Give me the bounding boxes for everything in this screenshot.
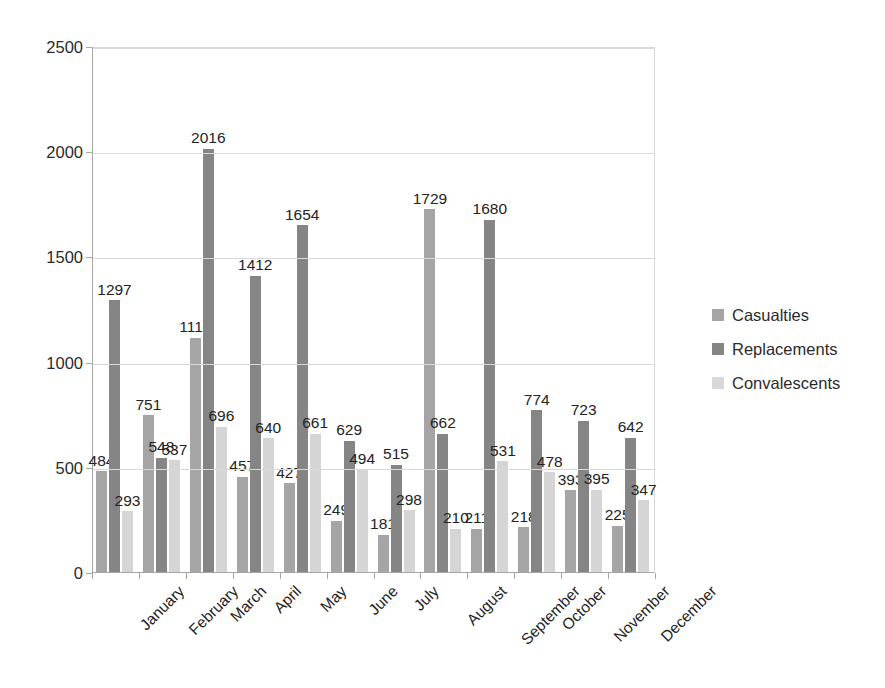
legend-item-replacements[interactable]: Replacements <box>712 332 877 366</box>
bar <box>612 526 623 573</box>
bar-group: 393723395 <box>562 48 609 573</box>
gridline <box>93 469 654 470</box>
bar <box>424 209 435 573</box>
x-axis-tick-mark <box>327 573 328 579</box>
bar <box>544 472 555 573</box>
bar-value-label: 395 <box>584 471 610 487</box>
bar-value-label: 662 <box>430 415 456 431</box>
y-axis: 05001000150020002500 <box>0 47 83 573</box>
bar-group: 11192016696 <box>187 48 234 573</box>
bar-value-label: 478 <box>537 454 563 470</box>
y-axis-tick-mark <box>86 257 92 258</box>
legend-item-label: Casualties <box>732 307 809 324</box>
y-axis-tick-label: 2500 <box>9 39 83 56</box>
bar-value-label: 1654 <box>285 207 319 223</box>
bar <box>357 469 368 573</box>
y-axis-tick-label: 1500 <box>9 249 83 266</box>
x-axis-tick-mark <box>280 573 281 579</box>
bar-value-label: 347 <box>631 482 657 498</box>
y-axis-tick-mark <box>86 47 92 48</box>
bar <box>591 490 602 573</box>
x-axis-tick-mark <box>139 573 140 579</box>
bar-value-label: 642 <box>618 419 644 435</box>
bar-groups: 4841297293751548537111920166964571412640… <box>93 48 654 573</box>
gridline <box>93 153 654 154</box>
bar-value-label: 696 <box>208 408 234 424</box>
bar-value-label: 531 <box>490 443 516 459</box>
bar-value-label: 723 <box>571 402 597 418</box>
x-axis-tick-mark <box>608 573 609 579</box>
x-axis-category-label: May <box>317 583 349 615</box>
x-axis-category-label: June <box>366 583 401 618</box>
x-axis-category-label: August <box>464 583 509 628</box>
bar-value-label: 293 <box>115 493 141 509</box>
bar <box>471 529 482 573</box>
bar-group: 4571412640 <box>234 48 281 573</box>
bar <box>169 460 180 573</box>
bar <box>484 220 495 573</box>
bar <box>156 458 167 573</box>
x-axis-tick-mark <box>186 573 187 579</box>
gridline <box>93 48 654 49</box>
x-axis-tick-mark <box>514 573 515 579</box>
bar-value-label: 1680 <box>473 201 507 217</box>
y-axis-tick-mark <box>86 468 92 469</box>
bar <box>378 535 389 573</box>
bar <box>190 338 201 573</box>
bar-group: 2111680531 <box>468 48 515 573</box>
bar <box>578 421 589 573</box>
bar-value-label: 1297 <box>97 282 131 298</box>
bottom-caption <box>105 668 715 684</box>
x-axis-category-label: January <box>137 583 187 633</box>
bar <box>96 471 107 573</box>
bar-group: 1729662210 <box>421 48 468 573</box>
x-axis-labels: JanuaryFebruaryMarchAprilMayJuneJulyAugu… <box>92 573 655 683</box>
x-axis-category-label: July <box>411 583 441 613</box>
bar <box>109 300 120 573</box>
legend-swatch-icon <box>712 377 724 389</box>
y-axis-tick-label: 1000 <box>9 354 83 371</box>
bar-value-label: 537 <box>161 442 187 458</box>
gridline <box>93 258 654 259</box>
x-axis-tick-mark <box>92 573 93 579</box>
y-axis-tick-mark <box>86 573 92 574</box>
bar <box>122 511 133 573</box>
bar <box>284 483 295 573</box>
legend-item-convalescents[interactable]: Convalescents <box>712 366 877 400</box>
bar-value-label: 494 <box>349 451 375 467</box>
bar <box>404 510 415 573</box>
x-axis-tick-mark <box>374 573 375 579</box>
x-axis-tick-mark <box>561 573 562 579</box>
chart-legend: CasualtiesReplacementsConvalescents <box>712 298 877 400</box>
bar <box>625 438 636 573</box>
bar-value-label: 640 <box>255 420 281 436</box>
legend-item-casualties[interactable]: Casualties <box>712 298 877 332</box>
bar <box>263 438 274 573</box>
bar <box>297 225 308 573</box>
bar <box>497 461 508 573</box>
bar-group: 4841297293 <box>93 48 140 573</box>
bar-value-label: 774 <box>524 392 550 408</box>
bar-group: 218774478 <box>515 48 562 573</box>
bar <box>565 490 576 573</box>
legend-swatch-icon <box>712 309 724 321</box>
bar <box>216 427 227 573</box>
bar-group: 249629494 <box>328 48 375 573</box>
bar-value-label: 629 <box>336 422 362 438</box>
bar <box>237 477 248 573</box>
bar-value-label: 1729 <box>413 191 447 207</box>
bar <box>203 149 214 573</box>
bar <box>310 434 321 573</box>
legend-swatch-icon <box>712 343 724 355</box>
x-axis-tick-mark <box>655 573 656 579</box>
bar <box>450 529 461 573</box>
y-axis-tick-label: 500 <box>9 460 83 477</box>
legend-item-label: Replacements <box>732 341 837 358</box>
x-axis-tick-mark <box>467 573 468 579</box>
bar-value-label: 298 <box>396 492 422 508</box>
legend-item-label: Convalescents <box>732 375 840 392</box>
bar <box>531 410 542 573</box>
y-axis-tick-mark <box>86 363 92 364</box>
bar-group: 4271654661 <box>281 48 328 573</box>
y-axis-tick-label: 0 <box>9 565 83 582</box>
